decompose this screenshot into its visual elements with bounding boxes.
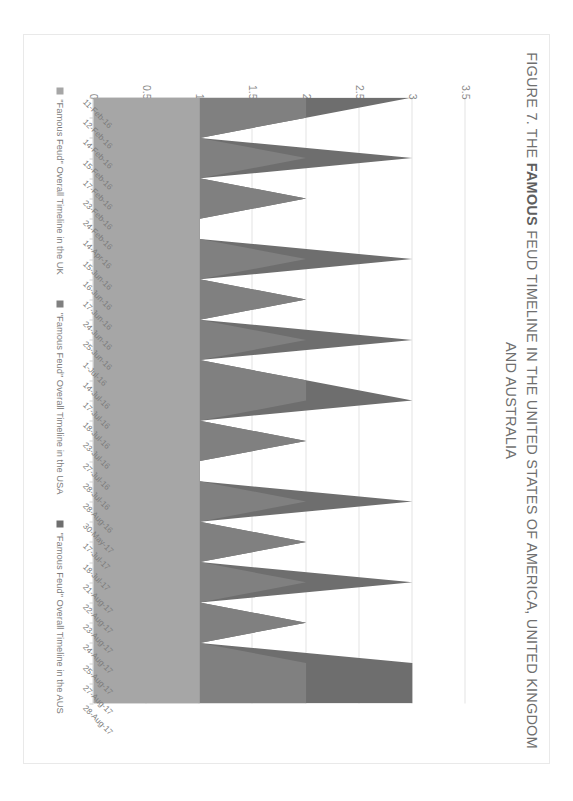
chart-title-emphasis: FAMOUS (523, 162, 539, 225)
category-tick (89, 360, 93, 361)
value-axis-tick-label: 1 (194, 59, 204, 99)
category-tick (89, 622, 93, 623)
value-axis-tick-label: 1.5 (247, 59, 257, 99)
chart-title-suffix: FEUD TIMELINE IN THE UNITED STATES OF AM… (502, 225, 539, 748)
category-tick (89, 501, 93, 502)
category-tick (89, 582, 93, 583)
stacked-area-series (93, 97, 465, 703)
category-tick (89, 420, 93, 421)
figure-page: FIGURE 7. THE FAMOUS FEUD TIMELINE IN TH… (0, 0, 573, 801)
category-tick (89, 481, 93, 482)
category-tick (89, 521, 93, 522)
value-axis-tick-label: 0.5 (141, 59, 151, 99)
category-tick (89, 339, 93, 340)
value-axis-tick-label: 2 (301, 59, 311, 99)
category-tick (89, 400, 93, 401)
legend-swatch-icon (56, 87, 63, 94)
chart-stage: FIGURE 7. THE FAMOUS FEUD TIMELINE IN TH… (24, 35, 551, 765)
legend-label: "Famous Feud" Overall Timeline in the AU… (54, 532, 65, 713)
legend-swatch-icon (56, 300, 63, 307)
category-tick (89, 178, 93, 179)
category-tick (89, 541, 93, 542)
chart-legend: "Famous Feud" Overall Timeline in the UK… (54, 35, 65, 765)
category-tick (89, 299, 93, 300)
category-tick (89, 440, 93, 441)
value-axis-tick-label: 0 (88, 59, 98, 99)
value-axis-tick-label: 3 (407, 59, 417, 99)
legend-swatch-icon (56, 520, 63, 527)
legend-label: "Famous Feud" Overall Timeline in the UK (54, 99, 65, 274)
category-tick (89, 663, 93, 664)
category-tick (89, 97, 93, 98)
category-tick (89, 703, 93, 704)
chart-title: FIGURE 7. THE FAMOUS FEUD TIMELINE IN TH… (499, 35, 541, 765)
category-tick (89, 562, 93, 563)
category-tick (89, 319, 93, 320)
category-tick (89, 461, 93, 462)
category-tick (89, 642, 93, 643)
legend-label: "Famous Feud" Overall Timeline in the US… (54, 312, 65, 494)
value-axis-tick-label: 3.5 (460, 59, 470, 99)
value-axis-tick-label: 2.5 (354, 59, 364, 99)
legend-item[interactable]: "Famous Feud" Overall Timeline in the UK (54, 87, 65, 274)
category-tick (89, 137, 93, 138)
category-tick (89, 158, 93, 159)
legend-item[interactable]: "Famous Feud" Overall Timeline in the AU… (54, 520, 65, 713)
legend-item[interactable]: "Famous Feud" Overall Timeline in the US… (54, 300, 65, 494)
category-tick (89, 117, 93, 118)
category-tick (89, 380, 93, 381)
category-tick (89, 279, 93, 280)
category-tick (89, 259, 93, 260)
category-tick (89, 218, 93, 219)
category-tick (89, 683, 93, 684)
category-tick (89, 238, 93, 239)
figure-frame: FIGURE 7. THE FAMOUS FEUD TIMELINE IN TH… (23, 34, 550, 764)
chart-title-prefix: FIGURE 7. THE (523, 52, 539, 163)
plot-area: 00.511.522.533.5 11-Feb-1612-Feb-1614-Fe… (93, 97, 465, 703)
plot-series-layer (93, 97, 465, 703)
category-tick (89, 198, 93, 199)
category-tick (89, 602, 93, 603)
